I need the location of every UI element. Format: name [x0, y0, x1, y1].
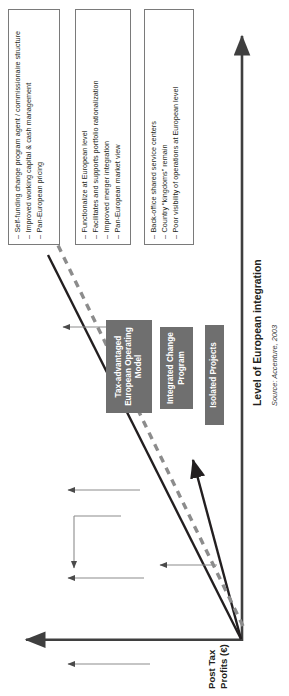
list-item: –Pan-European market view [113, 15, 122, 239]
series-label-text: Integrated Change Program [166, 329, 186, 407]
list-item: –Functionalize at European level [80, 15, 89, 239]
bullet-dash: – [35, 233, 44, 240]
list-item: –Pan-European pricing [35, 15, 44, 239]
series-label-integrated-change: Integrated Change Program [160, 327, 193, 409]
bullet-dash: – [171, 233, 180, 240]
callout-box-tax-advantaged: –Self-funding change program agent / com… [8, 9, 60, 245]
list-item: –Self-funding change program agent / com… [13, 15, 22, 239]
list-item: –Facilitates and supports portfolio rati… [91, 15, 100, 239]
bullet-dash: – [91, 233, 100, 240]
bullet-dash: – [160, 233, 169, 240]
list-item: –Improved merger integration [102, 15, 111, 239]
list-item: –Country “kingdoms” remain [160, 15, 169, 239]
bullet-dash: – [13, 233, 22, 240]
source-note: Source: Accenture, 2003 [270, 325, 279, 406]
callout-box-isolated-projects: –Back-office shared service centers –Cou… [144, 9, 194, 245]
list-item: –Improved working capital & cash managem… [24, 15, 33, 239]
list-item: –Back-office shared service centers [149, 15, 158, 239]
series-isolated-projects [193, 460, 241, 639]
series-label-text: Isolated Projects [209, 342, 219, 408]
bullet-dash: – [113, 233, 122, 240]
series-integrated-change-program [48, 255, 241, 639]
chart-figure: –Self-funding change program agent / com… [0, 0, 289, 696]
series-label-isolated-projects: Isolated Projects [205, 325, 224, 425]
series-label-text: Tax-advantaged European Operating Model [114, 322, 145, 411]
series-label-tax-advantaged: Tax-advantaged European Operating Model [106, 320, 152, 413]
y-axis-label: Post Tax Profits (€) [206, 643, 229, 689]
bullet-dash: – [102, 233, 111, 240]
callout-box-integrated-change: –Functionalize at European level –Facili… [75, 9, 131, 245]
x-axis-label: Level of European integration [252, 259, 263, 406]
bullet-dash: – [24, 233, 33, 240]
bullet-dash: – [80, 233, 89, 240]
bullet-dash: – [149, 233, 158, 240]
list-item: –Poor visibility of operations at Europe… [171, 15, 180, 239]
